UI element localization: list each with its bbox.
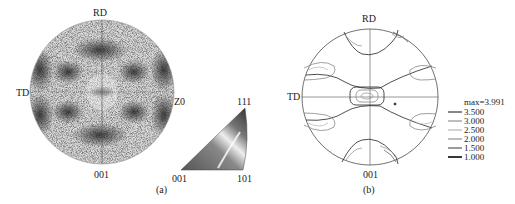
- pole-figure-b: [302, 29, 438, 165]
- legend-max: max=3.991: [464, 97, 505, 107]
- label-td-a: TD: [16, 88, 29, 98]
- ipf-triangle: [181, 108, 247, 170]
- label-rd-b: RD: [362, 14, 376, 24]
- ipf-label-101: 101: [237, 174, 252, 184]
- legend-swatches: [448, 112, 462, 157]
- ipf-label-111: 111: [237, 97, 251, 107]
- caption-a: (a): [156, 185, 167, 195]
- legend-level: 1.000: [464, 152, 484, 162]
- label-rd-a: RD: [93, 8, 107, 18]
- label-td-b: TD: [287, 92, 300, 102]
- ipf-label-001: 001: [172, 174, 187, 184]
- label-z0-a: Z0: [174, 97, 185, 107]
- label-001-a: 001: [94, 170, 109, 180]
- caption-b: (b): [363, 185, 375, 195]
- figure-canvas: [0, 0, 515, 204]
- label-001-b: 001: [363, 170, 378, 180]
